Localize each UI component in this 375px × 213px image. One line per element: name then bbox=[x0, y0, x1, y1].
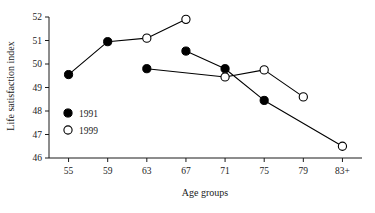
life-satisfaction-line-chart: Life satisfaction index 46474849505152 5… bbox=[0, 0, 375, 213]
x-axis-title: Age groups bbox=[182, 187, 228, 198]
x-tick-label: 79 bbox=[299, 166, 309, 176]
data-point-1999-71 bbox=[221, 73, 229, 81]
data-point-1991-59 bbox=[104, 38, 112, 46]
x-tick-label: 75 bbox=[259, 166, 269, 176]
x-tick-label: 55 bbox=[64, 166, 74, 176]
chart-container: Life satisfaction index 46474849505152 5… bbox=[0, 0, 375, 213]
x-axis-ticks: 5559636771757983+ bbox=[64, 158, 350, 176]
x-tick-label: 63 bbox=[142, 166, 152, 176]
x-tick-label: 83+ bbox=[335, 166, 350, 176]
series-line-seg-tail bbox=[264, 100, 342, 146]
y-tick-label: 48 bbox=[33, 106, 43, 116]
legend-marker-1999 bbox=[64, 126, 72, 134]
legend-label-1999: 1999 bbox=[79, 126, 98, 136]
series-line-seg-1991-early bbox=[69, 42, 108, 75]
data-markers bbox=[64, 15, 346, 150]
data-point-1999-79 bbox=[299, 93, 307, 101]
y-axis-label-group: Life satisfaction index bbox=[5, 41, 16, 130]
x-tick-label: 59 bbox=[103, 166, 113, 176]
data-point-1991-55 bbox=[64, 70, 72, 78]
y-tick-label: 50 bbox=[33, 59, 43, 69]
y-tick-label: 51 bbox=[33, 36, 43, 46]
x-tick-label: 67 bbox=[181, 166, 191, 176]
data-point-1991-71 bbox=[221, 65, 229, 73]
y-axis-title: Life satisfaction index bbox=[5, 41, 16, 130]
y-tick-label: 52 bbox=[33, 12, 43, 22]
y-tick-label: 46 bbox=[33, 153, 43, 163]
data-point-1999-83+ bbox=[338, 142, 346, 150]
data-point-1991-67 bbox=[182, 47, 190, 55]
data-point-1999-67 bbox=[182, 15, 190, 23]
y-axis-ticks: 46474849505152 bbox=[33, 12, 50, 163]
data-point-1999-75 bbox=[260, 66, 268, 74]
legend-label-1991: 1991 bbox=[79, 109, 98, 119]
y-tick-label: 49 bbox=[33, 83, 43, 93]
x-tick-label: 71 bbox=[220, 166, 230, 176]
y-tick-label: 47 bbox=[33, 130, 43, 140]
series-line-seg-1991-mid bbox=[147, 69, 225, 77]
data-point-1999-63 bbox=[143, 34, 151, 42]
data-point-1991-75 bbox=[260, 96, 268, 104]
legend-marker-1991 bbox=[64, 109, 72, 117]
legend: 19911999 bbox=[64, 109, 98, 136]
data-point-1991-63 bbox=[143, 65, 151, 73]
